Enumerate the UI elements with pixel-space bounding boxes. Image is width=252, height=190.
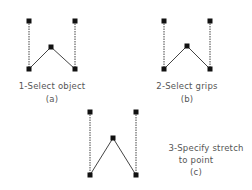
panel-b: 2-Select grips (b)	[156, 19, 218, 105]
grip-square-icon	[162, 19, 167, 24]
grip-square-icon	[111, 136, 116, 141]
right-diagonal-line	[51, 47, 75, 69]
right-diagonal-line	[113, 138, 136, 175]
grip-square-icon	[88, 110, 93, 115]
grip-square-icon	[73, 19, 78, 24]
grip-square-icon	[208, 67, 213, 72]
grip-square-icon	[134, 110, 139, 115]
panel-b-caption: 2-Select grips	[156, 81, 218, 91]
grip-square-icon	[27, 67, 32, 72]
grip-square-icon	[49, 45, 54, 50]
panel-a-caption: 1-Select object	[19, 81, 86, 91]
panel-a-tag: (a)	[46, 94, 58, 104]
right-diagonal-line	[187, 46, 210, 69]
stretch-grips-diagram: 1-Select object (a) 2-Select grips (b) 3…	[0, 0, 252, 190]
left-diagonal-line	[90, 138, 113, 175]
panel-c-caption-line2: to point	[179, 155, 214, 165]
left-diagonal-line	[29, 47, 51, 69]
panel-c-tag: (c)	[190, 167, 202, 177]
panel-c: 3-Specify stretch to point (c)	[88, 110, 244, 178]
grip-square-icon	[185, 44, 190, 49]
grip-square-icon	[162, 67, 167, 72]
grip-square-icon	[88, 173, 93, 178]
grip-square-icon	[208, 19, 213, 24]
grip-square-icon	[134, 173, 139, 178]
left-diagonal-line	[164, 46, 187, 69]
panel-c-caption-line1: 3-Specify stretch	[168, 143, 243, 153]
panel-a: 1-Select object (a)	[19, 19, 86, 105]
grip-square-icon	[27, 19, 32, 24]
panel-b-tag: (b)	[181, 94, 194, 104]
grip-square-icon	[73, 67, 78, 72]
